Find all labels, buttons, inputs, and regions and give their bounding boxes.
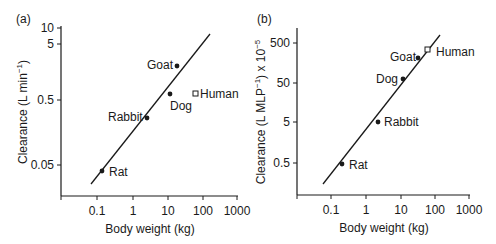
label-rabbit: Rabbit [108,110,143,124]
panel-a: (a) 10 5 0.5 0.05 0.1 1 10 100 1000 Body… [15,12,251,236]
x-tick-label: 10 [161,204,175,218]
label-rat: Rat [109,165,128,179]
x-tick-label: 10 [394,203,408,217]
point-goat [416,56,421,61]
x-axis-label: Body weight (kg) [105,222,194,236]
figure: (a) 10 5 0.5 0.05 0.1 1 10 100 1000 Body… [0,0,496,244]
y-axis-label: Clearance (L MLP−1) x 10−5 [253,39,268,184]
point-rat [100,169,105,174]
label-dog: Dog [376,72,398,86]
x-tick-label: 0.1 [89,204,106,218]
point-goat [175,64,180,69]
y-tick-label: 50 [277,76,291,90]
x-tick-label: 100 [193,204,213,218]
fit-line [323,35,440,184]
label-human: Human [436,45,475,59]
point-human [425,47,430,52]
panel-a-tag: (a) [16,12,31,26]
y-tick-label: 0.5 [37,93,54,107]
label-human: Human [200,87,239,101]
label-goat: Goat [147,58,174,72]
x-tick-label: 1000 [456,203,483,217]
y-axis-label: Clearance (L min−1) [15,60,30,164]
label-goat: Goat [390,50,417,64]
y-tick-label: 500 [270,36,290,50]
x-tick-label: 1 [130,204,137,218]
y-tick-label: 5 [47,37,54,51]
x-tick-label: 100 [425,203,445,217]
point-rat [340,162,345,167]
fit-line [91,34,210,184]
y-tick-label: 0.05 [31,158,55,172]
point-dog [401,77,406,82]
x-tick-label: 1 [363,203,370,217]
label-dog: Dog [170,99,192,113]
point-dog [168,92,173,97]
point-rabbit [145,116,150,121]
point-human [193,91,198,96]
y-tick-label: 0.5 [273,156,290,170]
panel-b: (b) 500 50 5 0.5 0.1 1 10 100 1000 Body … [253,12,483,235]
x-tick-label: 0.1 [323,203,340,217]
label-rabbit: Rabbit [384,115,419,129]
label-rat: Rat [349,158,368,172]
y-tick-label: 5 [283,115,290,129]
panel-b-tag: (b) [257,12,272,26]
y-tick-label: 10 [41,21,55,35]
x-axis-label: Body weight (kg) [339,221,428,235]
point-rabbit [376,120,381,125]
x-tick-label: 1000 [224,204,251,218]
